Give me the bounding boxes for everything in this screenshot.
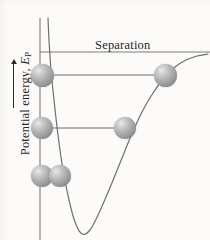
y-axis-label-text: Potential energy, — [18, 65, 32, 155]
x-axis-label: Separation — [95, 38, 150, 53]
atom-sphere-upper-level-2 — [154, 64, 177, 87]
y-axis-label-subscript: P — [23, 52, 33, 57]
y-axis-label-symbol: E — [18, 57, 32, 65]
atom-sphere-lower-level-2 — [49, 165, 71, 187]
potential-energy-diagram: Potential energy, EP Separation — [0, 0, 210, 240]
atom-sphere-middle-level-1 — [31, 117, 53, 139]
atom-sphere-upper-level-1 — [31, 64, 54, 87]
y-axis-arrow-shaft — [13, 62, 14, 108]
y-axis-label: Potential energy, EP — [18, 34, 33, 174]
energy-level-lines — [42, 75, 165, 176]
atom-sphere-middle-level-2 — [114, 117, 136, 139]
